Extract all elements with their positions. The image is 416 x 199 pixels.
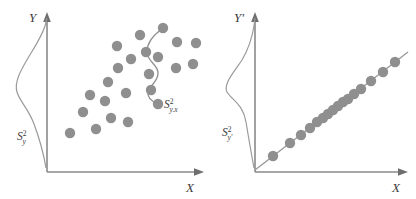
data-point [390, 57, 400, 67]
left-panel: Y X S2y S2y.x [16, 10, 204, 195]
data-point [65, 128, 75, 138]
data-point [126, 54, 136, 64]
right-y-axis-label: Y' [234, 10, 244, 25]
data-point [171, 63, 181, 73]
data-point [112, 41, 122, 51]
data-point [153, 52, 163, 62]
right-marginal-variance-subscript: y' [227, 133, 233, 142]
data-point [121, 88, 131, 98]
left-scatter-points [65, 23, 201, 138]
right-x-axis-label: X [391, 180, 401, 195]
left-conditional-variance-label: S2y.x [164, 97, 178, 114]
data-point [144, 69, 154, 79]
left-marginal-distribution-curve [16, 18, 47, 168]
left-x-axis [47, 168, 204, 176]
statistics-variance-figure: Y X S2y S2y.x [0, 0, 416, 199]
data-point [172, 37, 182, 47]
data-point [135, 30, 145, 40]
data-point [366, 76, 376, 86]
data-point [153, 99, 163, 109]
right-x-axis [255, 168, 408, 176]
data-point [191, 38, 201, 48]
data-point [296, 130, 306, 140]
left-x-axis-label: X [185, 180, 195, 195]
data-point [103, 77, 113, 87]
data-point [141, 47, 151, 57]
data-point [106, 113, 116, 123]
left-y-axis-label: Y [29, 10, 38, 25]
data-point [356, 84, 366, 94]
data-point [78, 107, 88, 117]
left-conditional-variance-subscript: y.x [169, 105, 179, 114]
data-point [188, 59, 198, 69]
left-y-axis [43, 12, 51, 172]
data-point [378, 67, 388, 77]
data-point [91, 124, 101, 134]
data-point [158, 23, 168, 33]
right-marginal-distribution-curve [226, 18, 255, 168]
left-marginal-variance-subscript: y [22, 137, 27, 146]
right-scatter-points [268, 57, 400, 161]
data-point [268, 151, 278, 161]
data-point [146, 85, 156, 95]
data-point [123, 117, 133, 127]
right-marginal-variance-label: S2y' [222, 125, 233, 142]
right-panel: Y' X S2y' [222, 10, 408, 195]
data-point [100, 96, 110, 106]
data-point [113, 63, 123, 73]
data-point [85, 90, 95, 100]
data-point [285, 138, 295, 148]
left-marginal-variance-label: S2y [17, 129, 27, 146]
figure-canvas: Y X S2y S2y.x [0, 0, 416, 199]
